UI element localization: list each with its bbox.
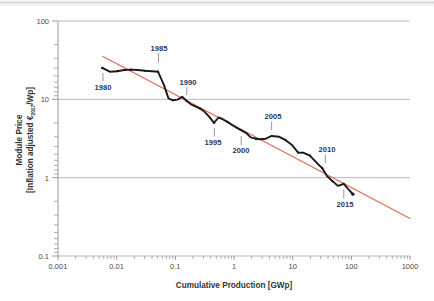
x-tick-label: 0.001 bbox=[49, 262, 68, 271]
annotation-1980: 1980 bbox=[95, 83, 112, 92]
x-tick-label: 10 bbox=[288, 262, 296, 271]
y-axis-tick-labels: 100 10 1 0.1 bbox=[36, 17, 49, 261]
y-axis-major-ticks bbox=[52, 21, 58, 256]
plot-area-background bbox=[58, 21, 410, 256]
learning-curve-chart: 100 10 1 0.1 0.001 0.01 0.1 1 10 100 100… bbox=[0, 0, 434, 301]
y-axis-title-line2: [Inflation adjusted €2017/Wp] bbox=[26, 87, 36, 193]
y-axis-title-line1: Module Price bbox=[15, 114, 24, 165]
y-tick-label: 10 bbox=[41, 95, 49, 104]
y-axis-title-unit: /Wp] bbox=[26, 87, 35, 105]
y-axis-title: Module Price [Inflation adjusted €2017/W… bbox=[15, 87, 36, 193]
y-axis-title-year-subscript: 2017 bbox=[31, 105, 36, 116]
annotation-2010: 2010 bbox=[319, 145, 336, 154]
x-tick-label: 1000 bbox=[402, 262, 419, 271]
y-tick-label: 1 bbox=[45, 174, 49, 183]
annotation-2015: 2015 bbox=[337, 200, 355, 209]
x-axis-title: Cumulative Production [GWp] bbox=[176, 281, 293, 290]
x-tick-label: 0.01 bbox=[109, 262, 124, 271]
x-axis-tick-labels: 0.001 0.01 0.1 1 10 100 1000 bbox=[49, 262, 419, 271]
y-axis-title-currency: [Inflation adjusted € bbox=[26, 115, 35, 193]
y-tick-label: 0.1 bbox=[39, 252, 49, 261]
annotation-1990: 1990 bbox=[180, 78, 197, 87]
y-tick-label: 100 bbox=[36, 17, 49, 26]
chart-screenshot: 100 10 1 0.1 0.001 0.01 0.1 1 10 100 100… bbox=[0, 0, 434, 301]
x-tick-label: 100 bbox=[345, 262, 358, 271]
y-axis-minor-ticks bbox=[54, 45, 58, 253]
annotation-2005: 2005 bbox=[265, 112, 283, 121]
annotation-1985: 1985 bbox=[151, 44, 169, 53]
annotation-1995: 1995 bbox=[205, 138, 223, 147]
x-tick-label: 0.1 bbox=[170, 262, 180, 271]
annotation-2000: 2000 bbox=[233, 146, 250, 155]
x-tick-label: 1 bbox=[232, 262, 236, 271]
chart-svg: 100 10 1 0.1 0.001 0.01 0.1 1 10 100 100… bbox=[0, 0, 434, 301]
